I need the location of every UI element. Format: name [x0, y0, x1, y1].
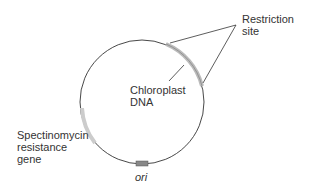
restriction-pointer-2: [203, 25, 236, 83]
ori-label: ori: [135, 171, 147, 183]
restriction-site-label: Restriction site: [242, 13, 294, 37]
spectinomycin-label: Spectinomycin resistance gene: [17, 129, 89, 165]
restriction-pointer-1: [170, 25, 236, 43]
ori-segment: [136, 161, 148, 166]
plasmid-diagram: Restriction site Chloroplast DNA Spectin…: [0, 0, 312, 188]
chloroplast-dna-label: Chloroplast DNA: [130, 84, 186, 108]
chloroplast-pointer: [169, 65, 184, 81]
